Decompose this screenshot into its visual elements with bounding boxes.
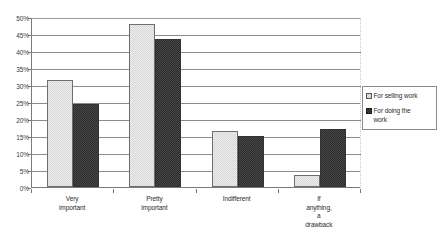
x-tick-mark	[113, 189, 114, 193]
chart-legend: For selling workFor doing thework	[362, 86, 437, 130]
legend-label: For selling work	[374, 92, 418, 100]
bar	[320, 129, 346, 187]
x-category-label-line: Pretty	[113, 195, 195, 204]
bar-chart: 0%5%10%15%20%25%30%35%40%45%50% Veryimpo…	[0, 0, 439, 241]
x-category-label: Prettyimportant	[113, 195, 195, 212]
y-tick-label: 0%	[3, 185, 29, 192]
x-category-label-line: important	[113, 204, 195, 213]
x-category-label: Ifanything,adrawback	[278, 195, 360, 229]
plot-area	[31, 18, 360, 188]
y-tick-label: 45%	[3, 32, 29, 39]
bar	[238, 136, 264, 187]
y-tick-label: 10%	[3, 151, 29, 158]
y-tick-label: 30%	[3, 83, 29, 90]
x-tick-mark	[278, 189, 279, 193]
bar-group	[129, 18, 181, 187]
x-category-label-line: anything,	[278, 204, 360, 213]
bar	[155, 39, 181, 187]
legend-swatch-doing-work	[366, 108, 372, 114]
plot-right-edge	[360, 18, 361, 188]
y-tick-label: 25%	[3, 100, 29, 107]
bar-group	[212, 18, 264, 187]
y-tick-label: 35%	[3, 66, 29, 73]
x-category-label-line: Indifferent	[196, 195, 278, 204]
bar-group	[294, 18, 346, 187]
bar	[129, 24, 155, 187]
bar-group	[47, 18, 99, 187]
legend-label-line: work	[374, 116, 411, 124]
x-axis: VeryimportantPrettyimportantIndifferentI…	[31, 189, 360, 241]
legend-item[interactable]: For selling work	[366, 92, 433, 100]
y-tick-label: 50%	[3, 15, 29, 22]
legend-label-line: For doing the	[374, 107, 411, 115]
x-category-label-line: a	[278, 212, 360, 221]
y-axis: 0%5%10%15%20%25%30%35%40%45%50%	[0, 18, 29, 188]
legend-label: For doing thework	[374, 107, 411, 124]
x-category-label-line: important	[31, 204, 113, 213]
y-tick-label: 20%	[3, 117, 29, 124]
bar	[294, 175, 320, 187]
x-category-label: Indifferent	[196, 195, 278, 204]
bar	[47, 80, 73, 187]
x-tick-mark	[196, 189, 197, 193]
y-tick-label: 5%	[3, 168, 29, 175]
bar	[212, 131, 238, 187]
x-category-label-line: If	[278, 195, 360, 204]
y-tick-label: 15%	[3, 134, 29, 141]
y-tick-label: 40%	[3, 49, 29, 56]
x-category-label-line: Very	[31, 195, 113, 204]
x-category-label-line: drawback	[278, 221, 360, 230]
legend-label-line: For selling work	[374, 92, 418, 100]
x-category-label: Veryimportant	[31, 195, 113, 212]
x-tick-mark	[360, 189, 361, 193]
legend-item[interactable]: For doing thework	[366, 107, 433, 124]
bar	[73, 104, 99, 187]
legend-swatch-selling-work	[366, 93, 372, 99]
x-tick-mark	[31, 189, 32, 193]
